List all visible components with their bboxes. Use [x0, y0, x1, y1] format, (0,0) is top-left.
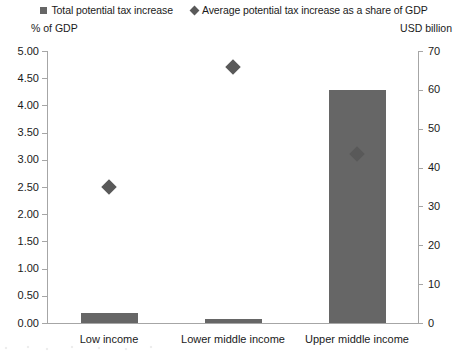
y2-axis-tick-label: 50: [428, 123, 440, 134]
y-axis-tick-label: 1.50: [18, 236, 39, 247]
y2-axis-tick-label: 10: [428, 279, 440, 290]
y-axis-tick-label: 4.50: [18, 73, 39, 84]
y2-axis-tick: [418, 90, 423, 91]
y2-axis-tick: [418, 206, 423, 207]
legend-label: Total potential tax increase: [51, 4, 173, 16]
bar-lower-middle-income: [205, 319, 262, 323]
y-axis-tick: [42, 214, 47, 215]
y-axis-tick-label: 1.00: [18, 263, 39, 274]
left-axis-caption: % of GDP: [31, 22, 78, 34]
right-axis-caption: USD billion: [400, 22, 452, 34]
legend-label: Average potential tax increase as a shar…: [202, 4, 428, 16]
y-axis-tick: [42, 133, 47, 134]
y-axis-tick-label: 3.50: [18, 127, 39, 138]
y-axis-tick-label: 4.00: [18, 100, 39, 111]
y-axis-tick-label: 2.50: [18, 182, 39, 193]
y2-axis-tick-label: 40: [428, 162, 440, 173]
marker-lower-middle-income: [225, 60, 241, 76]
y-axis-tick: [42, 105, 47, 106]
y2-axis-tick: [418, 245, 423, 246]
bar-low-income: [81, 313, 138, 323]
y2-axis-tick: [418, 284, 423, 285]
y2-axis-tick: [418, 129, 423, 130]
left-axis-line: [47, 51, 48, 324]
y-axis-tick-label: 3.00: [18, 154, 39, 165]
chart-legend: Total potential tax increase Average pot…: [0, 2, 468, 18]
y-axis-tick: [42, 241, 47, 242]
y2-axis-tick: [418, 323, 423, 324]
marker-low-income: [101, 179, 117, 195]
scan-artifact-band: [0, 343, 240, 353]
x-axis-line: [47, 323, 419, 324]
y-axis-tick: [42, 296, 47, 297]
y2-axis-tick-label: 60: [428, 84, 440, 95]
legend-entry-total-potential-tax-increase: Total potential tax increase: [40, 4, 173, 16]
bar-upper-middle-income: [329, 90, 386, 323]
y-axis-tick-label: 2.00: [18, 209, 39, 220]
y-axis-tick-label: 5.00: [18, 46, 39, 57]
y-axis-tick: [42, 78, 47, 79]
right-axis-line: [418, 51, 419, 324]
y2-axis-tick-label: 20: [428, 240, 440, 251]
x-axis-category-label: Upper middle income: [305, 333, 409, 345]
diamond-swatch-icon: [190, 5, 200, 15]
y-axis-tick: [42, 269, 47, 270]
chart-figure: Total potential tax increase Average pot…: [0, 0, 468, 357]
y-axis-tick-label: 0.00: [18, 318, 39, 329]
y-axis-tick: [42, 323, 47, 324]
y2-axis-tick: [418, 51, 423, 52]
y-axis-tick: [42, 51, 47, 52]
y-axis-tick: [42, 187, 47, 188]
y-axis-tick: [42, 160, 47, 161]
y2-axis-tick-label: 0: [428, 318, 434, 329]
y-axis-tick-label: 0.50: [18, 290, 39, 301]
plot-area: 0.000.501.001.502.002.503.003.504.004.50…: [47, 51, 419, 323]
square-swatch-icon: [40, 7, 47, 14]
legend-entry-average-potential-tax-increase: Average potential tax increase as a shar…: [191, 4, 428, 16]
y2-axis-tick-label: 70: [428, 46, 440, 57]
y2-axis-tick: [418, 168, 423, 169]
y2-axis-tick-label: 30: [428, 201, 440, 212]
